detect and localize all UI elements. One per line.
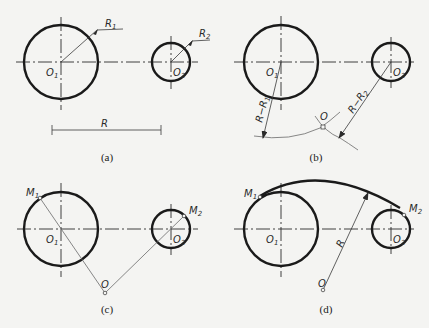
- point-o: [103, 291, 107, 295]
- caption-b: (b): [310, 151, 323, 164]
- r1-arrow-icon: [93, 29, 98, 35]
- m2-label: M2: [409, 203, 423, 216]
- arc-tangent-construction-diagram: R1 R2 O1 O2 R (a) O O1 O2 R−R1 R−R2 (b): [0, 0, 429, 328]
- r-label: R: [101, 118, 108, 129]
- o1-label: O1: [46, 234, 58, 247]
- r-label: R: [334, 238, 347, 249]
- panel-a: R1 R2 O1 O2 R (a): [16, 17, 211, 164]
- r1-label: R1: [105, 18, 116, 31]
- point-o: [321, 125, 325, 129]
- o1-label: O1: [266, 67, 278, 80]
- caption-c: (c): [101, 303, 114, 316]
- panel-b: O O1 O2 R−R1 R−R2 (b): [234, 16, 414, 164]
- line-o-m2: [105, 216, 184, 293]
- point-m1: [258, 195, 262, 199]
- panel-c: M1 M2 O O1 O2 (c): [17, 183, 203, 316]
- m1-label: M1: [244, 188, 257, 201]
- m2-label: M2: [189, 205, 203, 218]
- r2-label: R2: [199, 28, 211, 41]
- o1-label: O1: [266, 234, 278, 247]
- caption-d: (d): [320, 303, 333, 316]
- o-label: O: [101, 279, 109, 290]
- dim-r-minus-r2: [339, 62, 391, 138]
- dim2-label: R−R2: [346, 86, 372, 116]
- dim-r: [323, 193, 368, 290]
- o1-label: O1: [46, 67, 58, 80]
- panel-d: M1 M2 O R O1 O2 (d): [234, 181, 423, 316]
- r1-leader: [61, 29, 123, 62]
- r2-arrow-icon: [188, 40, 193, 46]
- point-m2: [402, 213, 406, 217]
- m1-label: M1: [26, 187, 39, 200]
- o-label: O: [320, 111, 328, 122]
- caption-a: (a): [101, 151, 114, 164]
- point-m2: [182, 214, 186, 218]
- o-label: O: [318, 278, 326, 289]
